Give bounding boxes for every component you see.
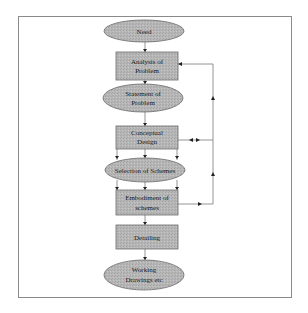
node-detailing: Detailing	[116, 225, 178, 249]
node-need: Need	[104, 20, 184, 42]
node-label: Statement of	[125, 90, 161, 98]
node-analysis-of-problem: Analysis of Problem	[116, 52, 178, 80]
arrow-down-icon	[143, 222, 147, 225]
node-label: Need	[137, 28, 152, 36]
design-process-flowchart: Need Analysis of Problem Statement of Pr…	[0, 0, 308, 313]
arrow-up-icon	[211, 96, 215, 100]
arrow-down-icon	[143, 187, 147, 190]
node-working-drawings: Working Drawings etc	[104, 260, 184, 290]
node-label: Problem	[131, 99, 155, 107]
node-label: Selection of Schemes	[115, 167, 176, 175]
arrow-right-icon	[198, 202, 202, 206]
arrow-right-icon	[196, 138, 200, 142]
node-label: Embodiment of	[125, 194, 169, 202]
node-label: Problem	[135, 67, 159, 75]
arrow-down-icon	[175, 156, 179, 159]
node-label: Drawings etc	[125, 276, 162, 284]
arrow-down-icon	[115, 156, 119, 159]
arrow-down-icon	[143, 123, 147, 126]
arrow-down-icon	[143, 81, 147, 84]
node-label: Conceptual	[131, 129, 163, 137]
arrow-down-icon	[143, 155, 147, 158]
arrow-left-icon	[178, 62, 182, 66]
node-label: Working	[132, 266, 157, 274]
node-conceptual-design: Conceptual Design	[116, 126, 178, 149]
arrow-down-icon	[143, 49, 147, 52]
arrow-left-icon	[189, 138, 193, 142]
arrow-up-icon	[211, 172, 215, 176]
node-label: Detailing	[134, 234, 161, 242]
node-label: schemes	[135, 204, 159, 212]
arrow-down-icon	[115, 187, 119, 190]
node-embodiment-of-schemes: Embodiment of schemes	[116, 190, 178, 215]
node-selection-of-schemes: Selection of Schemes	[105, 158, 185, 182]
arrow-down-icon	[175, 187, 179, 190]
arrow-down-icon	[143, 257, 147, 260]
node-label: Design	[137, 138, 157, 146]
node-label: Analysis of	[131, 58, 164, 66]
node-statement-of-problem: Statement of Problem	[103, 84, 183, 112]
